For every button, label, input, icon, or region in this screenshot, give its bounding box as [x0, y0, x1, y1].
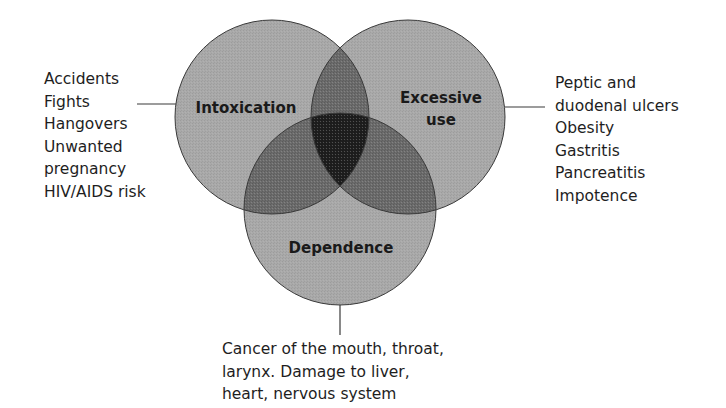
outcome-item: Unwanted — [44, 136, 146, 159]
outcome-item: HIV/AIDS risk — [44, 181, 146, 204]
outcome-item: Obesity — [555, 117, 679, 140]
outcome-item: larynx. Damage to liver, — [222, 361, 444, 384]
excessive-use-label-line1: Excessive — [400, 89, 482, 107]
intoxication-label: Intoxication — [196, 99, 297, 117]
outcome-item: Cancer of the mouth, throat, — [222, 338, 444, 361]
outcome-item: Pancreatitis — [555, 162, 679, 185]
outcome-item: Hangovers — [44, 113, 146, 136]
excessive-use-label-line2: use — [426, 111, 456, 129]
outcome-item: Peptic and — [555, 72, 679, 95]
intoxication-outcomes-list: Accidents Fights Hangovers Unwanted preg… — [44, 68, 146, 203]
outcome-item: Impotence — [555, 185, 679, 208]
outcome-item: pregnancy — [44, 158, 146, 181]
outcome-item: heart, nervous system — [222, 383, 444, 406]
venn-diagram: Intoxication Excessive use Dependence Ac… — [0, 0, 726, 408]
dependence-outcomes-list: Cancer of the mouth, throat, larynx. Dam… — [222, 338, 444, 406]
excessive-use-outcomes-list: Peptic and duodenal ulcers Obesity Gastr… — [555, 72, 679, 207]
outcome-item: Accidents — [44, 68, 146, 91]
outcome-item: duodenal ulcers — [555, 95, 679, 118]
outcome-item: Gastritis — [555, 140, 679, 163]
outcome-item: Fights — [44, 91, 146, 114]
dependence-label: Dependence — [289, 239, 394, 257]
